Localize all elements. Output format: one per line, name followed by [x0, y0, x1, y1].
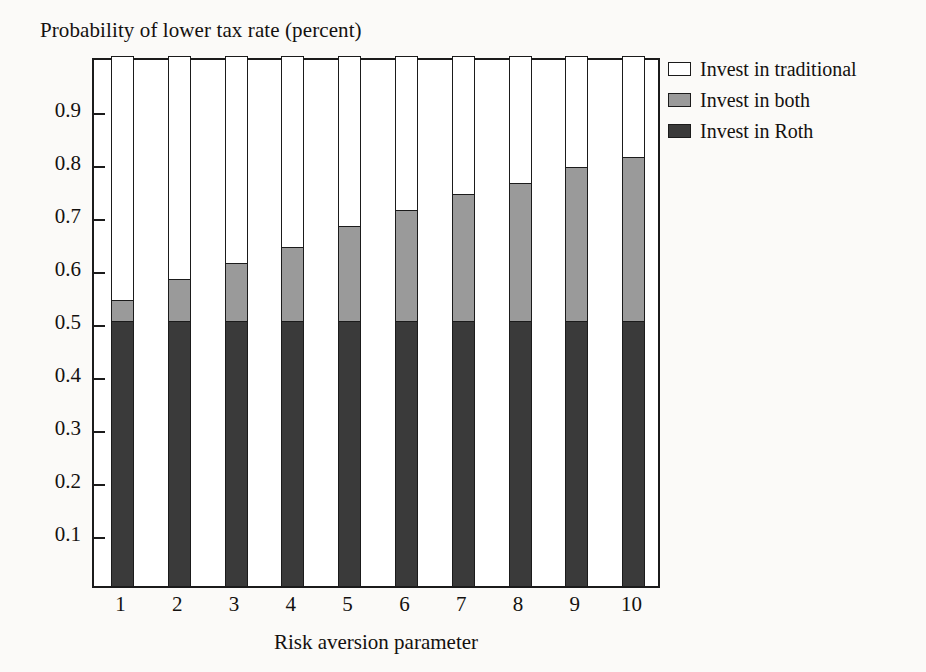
bar-segment-both [509, 183, 532, 321]
bar-segment-both [395, 210, 418, 321]
y-axis-tick-label: 0.4 [29, 365, 81, 386]
x-axis-tick-label: 1 [97, 594, 143, 615]
bar-group [168, 56, 191, 586]
bar-segment-roth [225, 321, 248, 586]
bar-segment-traditional [338, 56, 361, 226]
x-axis-tick-label: 8 [495, 594, 541, 615]
bar-segment-traditional [111, 56, 134, 300]
bar-group [565, 56, 588, 586]
y-axis-tick [94, 537, 105, 539]
y-axis-tick-label: 0.1 [29, 524, 81, 545]
bar-segment-roth [338, 321, 361, 586]
x-axis-title: Risk aversion parameter [92, 630, 660, 655]
y-axis-tick [94, 325, 105, 327]
legend-item: Invest in both [668, 89, 857, 111]
y-axis-tick [94, 113, 105, 115]
y-axis-tick-label: 0.9 [29, 100, 81, 121]
bar-group [452, 56, 475, 586]
x-axis-tick-label: 3 [211, 594, 257, 615]
bar-segment-roth [168, 321, 191, 586]
figure: Probability of lower tax rate (percent) … [0, 0, 926, 672]
bar-segment-both [338, 226, 361, 321]
y-axis-tick-label: 0.2 [29, 471, 81, 492]
bar-group [622, 56, 645, 586]
y-axis-tick-label: 0.7 [29, 206, 81, 227]
bar-segment-traditional [168, 56, 191, 279]
legend-swatch-icon [668, 62, 691, 76]
bar-segment-roth [395, 321, 418, 586]
bar-segment-traditional [622, 56, 645, 157]
bar-segment-both [622, 157, 645, 321]
plot-area [92, 58, 660, 588]
y-axis-tick [94, 166, 105, 168]
y-axis-tick [94, 431, 105, 433]
bar-group [111, 56, 134, 586]
x-axis-tick-label: 6 [381, 594, 427, 615]
legend-item-label: Invest in traditional [700, 59, 857, 79]
y-axis-tick-label: 0.3 [29, 418, 81, 439]
legend-swatch-icon [668, 93, 691, 107]
y-axis-tick [94, 378, 105, 380]
bar-segment-traditional [395, 56, 418, 210]
bar-segment-roth [452, 321, 475, 586]
bar-segment-traditional [565, 56, 588, 167]
legend-item-label: Invest in Roth [700, 121, 813, 141]
bar-segment-both [565, 167, 588, 321]
bar-segment-traditional [281, 56, 304, 247]
y-axis-tick-label: 0.5 [29, 312, 81, 333]
bar-group [281, 56, 304, 586]
bar-segment-traditional [225, 56, 248, 263]
x-axis-tick-label: 7 [438, 594, 484, 615]
bar-segment-roth [281, 321, 304, 586]
y-axis-tick-label: 0.8 [29, 153, 81, 174]
legend-item: Invest in Roth [668, 120, 857, 142]
y-axis-tick [94, 272, 105, 274]
legend: Invest in traditionalInvest in bothInves… [668, 58, 857, 142]
bar-segment-traditional [509, 56, 532, 183]
plot-inner [94, 60, 658, 586]
legend-item: Invest in traditional [668, 58, 857, 80]
bar-segment-traditional [452, 56, 475, 194]
legend-swatch-icon [668, 124, 691, 138]
bar-segment-both [111, 300, 134, 321]
bar-segment-roth [509, 321, 532, 586]
x-axis-tick-label: 4 [268, 594, 314, 615]
bar-segment-roth [622, 321, 645, 586]
x-axis-tick-label: 5 [325, 594, 371, 615]
bar-group [338, 56, 361, 586]
y-axis-tick [94, 219, 105, 221]
x-axis-tick-label: 10 [609, 594, 655, 615]
y-axis-tick [94, 484, 105, 486]
x-axis-tick-label: 2 [154, 594, 200, 615]
bar-segment-both [225, 263, 248, 321]
bar-segment-roth [565, 321, 588, 586]
bar-group [225, 56, 248, 586]
bar-segment-both [452, 194, 475, 321]
bar-segment-both [281, 247, 304, 321]
legend-item-label: Invest in both [700, 90, 810, 110]
bar-segment-both [168, 279, 191, 321]
x-axis-tick-label: 9 [552, 594, 598, 615]
y-axis-tick-label: 0.6 [29, 259, 81, 280]
bar-group [509, 56, 532, 586]
bar-segment-roth [111, 321, 134, 586]
chart-title: Probability of lower tax rate (percent) [40, 18, 362, 43]
bar-group [395, 56, 418, 586]
